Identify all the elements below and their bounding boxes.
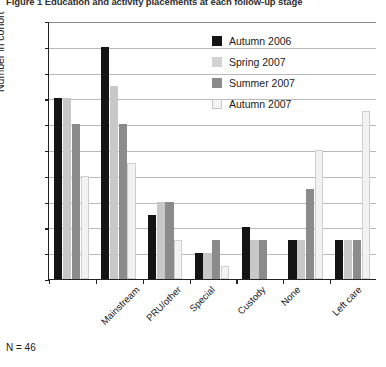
y-tick-mark-4 <box>45 228 49 229</box>
legend-item[interactable]: Summer 2007 <box>212 72 295 93</box>
bar[interactable] <box>221 266 229 279</box>
bar[interactable] <box>242 227 250 279</box>
legend-swatch-icon <box>212 36 222 46</box>
x-category-label: Special <box>187 284 217 314</box>
y-tick-mark-18 <box>45 48 49 49</box>
bar[interactable] <box>259 240 267 279</box>
y-axis-title: Number in cohort <box>0 11 6 92</box>
y-tick-mark-8 <box>45 177 49 178</box>
x-category-label: Mainstream <box>99 284 142 327</box>
bar[interactable] <box>288 240 296 279</box>
legend-swatch-icon <box>212 78 222 88</box>
bar[interactable] <box>72 124 80 279</box>
bar[interactable] <box>101 47 109 279</box>
y-tick-mark-2 <box>45 254 49 255</box>
legend-label: Autumn 2007 <box>229 98 291 110</box>
y-tick-mark-10 <box>45 151 49 152</box>
y-tick-mark-14 <box>45 99 49 100</box>
legend-item[interactable]: Autumn 2006 <box>212 30 295 51</box>
x-tick-mark <box>330 280 331 284</box>
bar[interactable] <box>63 98 71 279</box>
y-tick-mark-16 <box>45 74 49 75</box>
bar[interactable] <box>81 176 89 279</box>
bar[interactable] <box>174 240 182 279</box>
y-tick-mark-20 <box>45 22 49 23</box>
legend-swatch-icon <box>212 99 222 109</box>
x-tick-mark <box>143 280 144 284</box>
bar[interactable] <box>250 240 258 279</box>
x-tick-mark <box>236 280 237 284</box>
legend-label: Autumn 2006 <box>229 35 291 47</box>
legend-item[interactable]: Spring 2007 <box>212 51 295 72</box>
bar[interactable] <box>54 98 62 279</box>
x-tick-mark <box>283 280 284 284</box>
legend-item[interactable]: Autumn 2007 <box>212 93 295 114</box>
sample-size-footnote: N = 46 <box>6 342 36 353</box>
bar[interactable] <box>297 240 305 279</box>
bar[interactable] <box>119 124 127 279</box>
bar[interactable] <box>127 163 135 279</box>
x-tick-mark <box>190 280 191 284</box>
bar[interactable] <box>157 202 165 279</box>
bar-group <box>101 22 136 279</box>
y-tick-mark-6 <box>45 203 49 204</box>
x-tick-mark <box>96 280 97 284</box>
bar-group <box>54 22 89 279</box>
bar[interactable] <box>353 240 361 279</box>
bar[interactable] <box>212 240 220 279</box>
bar-group <box>148 22 183 279</box>
bar[interactable] <box>335 240 343 279</box>
bar[interactable] <box>148 215 156 280</box>
bar[interactable] <box>315 150 323 279</box>
legend-label: Spring 2007 <box>229 56 286 68</box>
y-tick-mark-12 <box>45 125 49 126</box>
x-category-label: None <box>278 284 302 308</box>
bar[interactable] <box>110 86 118 280</box>
bar[interactable] <box>203 253 211 279</box>
legend-label: Summer 2007 <box>229 77 295 89</box>
x-tick-mark <box>49 280 50 284</box>
bar[interactable] <box>344 240 352 279</box>
bar[interactable] <box>362 111 370 279</box>
bar[interactable] <box>306 189 314 279</box>
x-category-label: Custody <box>235 284 267 316</box>
bar[interactable] <box>195 253 203 279</box>
chart-legend: Autumn 2006Spring 2007Summer 2007Autumn … <box>212 30 295 114</box>
x-category-label: Left care <box>330 284 364 318</box>
legend-swatch-icon <box>212 57 222 67</box>
figure-caption: Figure 1 Education and activity placemen… <box>6 0 382 7</box>
x-category-label: PRU/other <box>144 284 183 323</box>
bar-group <box>335 22 370 279</box>
bar[interactable] <box>165 202 173 279</box>
